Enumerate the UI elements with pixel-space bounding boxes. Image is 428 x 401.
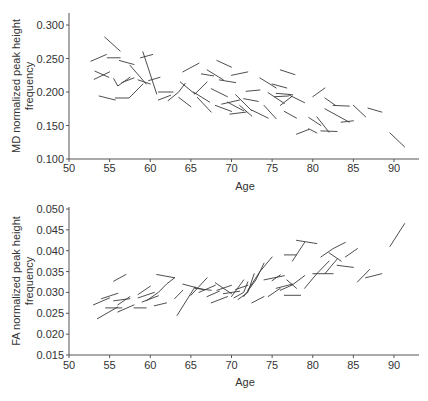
trajectory-line	[252, 297, 264, 303]
trajectory-line	[329, 253, 341, 261]
x-tick-label: 70	[225, 162, 237, 174]
y-tick-label: 0.150	[36, 120, 64, 132]
fa-x-axis-title: Age	[235, 376, 255, 388]
trajectory-line	[236, 95, 252, 111]
trajectory-line	[177, 287, 195, 315]
fa-chart-panel: 5055606570758085900.0150.0200.0250.0300.…	[10, 203, 419, 388]
chart-canvas: 5055606570758085900.1000.1500.2000.2500.…	[0, 0, 428, 401]
trajectory-line	[325, 98, 336, 105]
fa-y-axis-title-line1: FA normalized peak height	[10, 216, 22, 346]
trajectory-line	[305, 261, 329, 288]
trajectory-line	[211, 297, 227, 303]
trajectory-line	[240, 105, 252, 116]
y-tick-label: 0.035	[36, 266, 64, 278]
trajectory-line	[154, 303, 166, 306]
trajectory-line	[366, 274, 382, 278]
trajectory-line	[217, 285, 232, 290]
trajectory-line	[157, 275, 175, 278]
trajectory-line	[345, 249, 357, 257]
x-tick-label: 55	[104, 162, 116, 174]
md-y-axis-title-line1: MD normalized peak height	[10, 19, 22, 153]
trajectory-line	[195, 82, 207, 94]
trajectory-line	[275, 96, 289, 97]
trajectory-line	[244, 263, 264, 296]
x-tick-label: 50	[63, 359, 75, 371]
trajectory-line	[272, 84, 287, 88]
trajectory-line	[180, 82, 195, 94]
trajectory-line	[179, 97, 191, 106]
trajectory-line	[284, 111, 296, 118]
trajectory-line	[118, 297, 130, 305]
fa-trajectory-lines	[93, 224, 404, 319]
trajectory-line	[297, 240, 317, 243]
trajectory-line	[146, 278, 174, 301]
trajectory-line	[337, 265, 353, 267]
trajectory-line	[280, 96, 292, 105]
trajectory-line	[99, 96, 115, 100]
trajectory-line	[183, 63, 199, 72]
x-tick-label: 60	[144, 162, 156, 174]
x-tick-label: 60	[144, 359, 156, 371]
md-y-axis-title-line2: frequency	[23, 61, 35, 110]
trajectory-line	[309, 118, 321, 126]
trajectory-line	[309, 129, 317, 133]
trajectory-line	[217, 61, 232, 68]
trajectory-line	[118, 305, 134, 312]
trajectory-line	[246, 90, 260, 91]
trajectory-line	[268, 93, 284, 104]
trajectory-line	[143, 52, 157, 94]
x-tick-label: 85	[347, 162, 359, 174]
trajectory-line	[142, 296, 158, 302]
trajectory-line	[297, 130, 309, 135]
trajectory-line	[390, 224, 405, 247]
trajectory-line	[97, 307, 117, 319]
trajectory-line	[313, 88, 325, 97]
trajectory-line	[114, 77, 130, 86]
y-tick-label: 0.250	[36, 53, 64, 65]
x-tick-label: 85	[347, 359, 359, 371]
trajectory-line	[115, 84, 143, 98]
trajectory-line	[201, 74, 213, 76]
trajectory-line	[333, 105, 349, 106]
trajectory-line	[197, 97, 211, 112]
x-tick-label: 65	[185, 162, 197, 174]
fa-y-axis-title-line2: frequency	[23, 256, 35, 305]
y-tick-label: 0.040	[36, 245, 64, 257]
trajectory-line	[276, 93, 292, 94]
trajectory-line	[215, 105, 231, 111]
x-tick-label: 50	[63, 162, 75, 174]
x-tick-label: 80	[307, 359, 319, 371]
trajectory-line	[252, 110, 268, 118]
x-tick-label: 65	[185, 359, 197, 371]
trajectory-line	[91, 55, 107, 62]
x-tick-label: 90	[388, 359, 400, 371]
trajectory-line	[158, 95, 170, 100]
y-tick-label: 0.020	[36, 328, 64, 340]
trajectory-line	[260, 78, 276, 88]
trajectory-line	[248, 257, 272, 290]
trajectory-line	[321, 242, 345, 257]
trajectory-line	[357, 270, 369, 283]
md-x-axis-title: Age	[235, 180, 255, 192]
md-chart-panel: 5055606570758085900.1000.1500.2000.2500.…	[10, 13, 419, 192]
trajectory-line	[175, 290, 183, 298]
x-tick-label: 90	[388, 162, 400, 174]
x-tick-label: 80	[307, 162, 319, 174]
trajectory-line	[141, 55, 153, 58]
trajectory-line	[232, 280, 244, 297]
trajectory-line	[138, 286, 150, 294]
trajectory-line	[321, 131, 337, 132]
trajectory-line	[244, 99, 259, 102]
trajectory-line	[280, 70, 295, 75]
trajectory-line	[119, 61, 134, 65]
md-trajectory-lines	[91, 37, 405, 147]
trajectory-line	[207, 291, 219, 296]
trajectory-line	[130, 65, 146, 84]
x-tick-label: 75	[266, 162, 278, 174]
trajectory-line	[211, 89, 227, 97]
trajectory-line	[325, 259, 337, 274]
y-tick-label: 0.050	[36, 203, 64, 215]
trajectory-line	[368, 108, 382, 112]
trajectory-line	[280, 276, 304, 291]
md-axes: 5055606570758085900.1000.1500.2000.2500.…	[36, 13, 419, 174]
